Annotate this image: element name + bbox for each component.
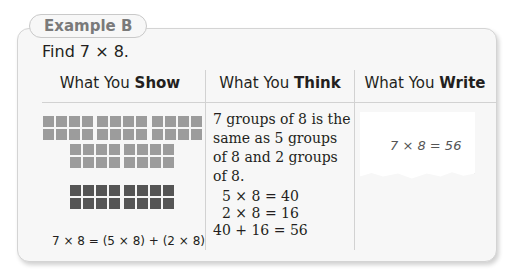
header-divider (42, 102, 497, 103)
light-square (110, 129, 121, 140)
show-equation: 7 × 8 = (5 × 8) + (2 × 8) (52, 234, 205, 248)
light-square (163, 157, 174, 168)
header-bold: Show (135, 74, 181, 92)
light-square (56, 116, 67, 127)
light-square (152, 129, 163, 140)
light-square (109, 157, 120, 168)
column-header-show: What You Show (40, 74, 200, 92)
dark-square (96, 185, 107, 196)
light-square (137, 157, 148, 168)
dark-square (109, 198, 120, 209)
light-square (97, 129, 108, 140)
dark-square (96, 198, 107, 209)
dark-square (150, 185, 161, 196)
light-square (82, 116, 93, 127)
dark-square (109, 185, 120, 196)
light-square (56, 129, 67, 140)
light-square (109, 144, 120, 155)
light-square (96, 144, 107, 155)
think-text: 7 groups of 8 is the same as 5 groups of… (213, 110, 353, 186)
light-square (43, 116, 54, 127)
header-bold: Think (294, 74, 341, 92)
light-square (70, 144, 81, 155)
dark-square (163, 185, 174, 196)
light-square (136, 116, 147, 127)
light-square (191, 116, 202, 127)
header-prefix: What You (60, 74, 135, 92)
header-prefix: What You (219, 74, 294, 92)
light-square (178, 116, 189, 127)
header-prefix: What You (365, 74, 440, 92)
dark-square (150, 198, 161, 209)
dark-square (83, 198, 94, 209)
written-answer-paper: 7 × 8 = 56 (360, 112, 475, 182)
dark-square (163, 198, 174, 209)
light-square (137, 144, 148, 155)
light-square (136, 129, 147, 140)
light-square (124, 144, 135, 155)
light-square (110, 116, 121, 127)
light-square (124, 157, 135, 168)
light-square (83, 144, 94, 155)
light-square (152, 116, 163, 127)
dark-square (124, 198, 135, 209)
light-square (163, 144, 174, 155)
written-answer: 7 × 8 = 56 (390, 138, 461, 153)
light-square (123, 129, 134, 140)
light-square (123, 116, 134, 127)
light-square (165, 116, 176, 127)
light-square (69, 116, 80, 127)
light-square (97, 116, 108, 127)
think-line-3: 40 + 16 = 56 (213, 222, 308, 239)
light-square (82, 129, 93, 140)
dark-square (70, 185, 81, 196)
header-bold: Write (439, 74, 485, 92)
example-tab: Example B (29, 14, 147, 38)
light-square (96, 157, 107, 168)
think-line-2: 2 × 8 = 16 (222, 205, 299, 222)
column-divider (354, 70, 355, 250)
light-square (43, 129, 54, 140)
dark-square (83, 185, 94, 196)
light-square (69, 129, 80, 140)
dark-square (137, 185, 148, 196)
dark-square (124, 185, 135, 196)
column-divider (205, 70, 206, 250)
light-square (165, 129, 176, 140)
problem-prompt: Find 7 × 8. (42, 42, 129, 61)
light-square (70, 157, 81, 168)
light-square (83, 157, 94, 168)
column-header-write: What You Write (355, 74, 495, 92)
think-line-1: 5 × 8 = 40 (222, 188, 299, 205)
light-square (191, 129, 202, 140)
column-header-think: What You Think (206, 74, 354, 92)
light-square (150, 144, 161, 155)
dark-square (137, 198, 148, 209)
light-square (178, 129, 189, 140)
light-square (150, 157, 161, 168)
dark-square (70, 198, 81, 209)
